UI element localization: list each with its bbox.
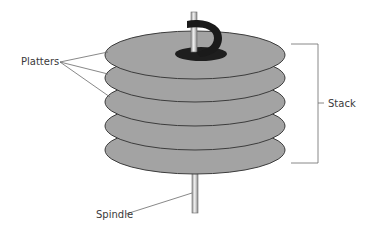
spindle-bottom bbox=[192, 168, 198, 213]
spindle-top bbox=[191, 12, 197, 52]
spindle-label: Spindle bbox=[96, 209, 133, 220]
platter-stack-diagram: Platters Stack Spindle bbox=[0, 0, 374, 231]
stack-bracket bbox=[291, 44, 324, 163]
platters-label: Platters bbox=[21, 56, 59, 67]
spindle-leader-line bbox=[126, 193, 192, 214]
stack-label: Stack bbox=[328, 98, 356, 109]
platters-leader-lines bbox=[60, 52, 110, 97]
